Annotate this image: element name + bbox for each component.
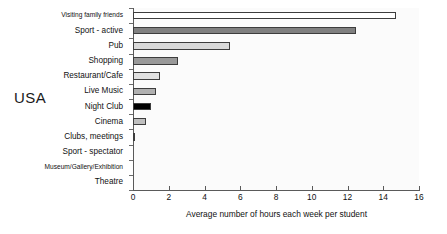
x-axis-tick — [169, 186, 170, 191]
category-label: Sport - spectator — [0, 145, 128, 160]
x-axis-tick — [133, 186, 134, 191]
bar — [133, 72, 160, 80]
x-axis-tick — [383, 186, 384, 191]
category-label: Museum/Gallery/Exhibition — [0, 160, 128, 175]
x-axis-tick — [240, 186, 241, 191]
bar — [133, 42, 230, 50]
bar — [133, 57, 178, 65]
bar-row — [133, 38, 419, 53]
x-axis-tick — [205, 186, 206, 191]
bar-row — [133, 53, 419, 68]
bars-layer — [133, 8, 419, 190]
category-label: Pub — [0, 38, 128, 53]
bar — [133, 103, 151, 111]
bar-chart-figure: USA Visiting family friendsSport - activ… — [0, 0, 447, 234]
category-axis: Visiting family friendsSport - activePub… — [0, 8, 128, 190]
bar-row — [133, 69, 419, 84]
bar-row — [133, 8, 419, 23]
x-axis-tick — [419, 186, 420, 191]
bar-row — [133, 160, 419, 175]
x-axis-tick — [348, 186, 349, 191]
bar-row — [133, 84, 419, 99]
x-axis-title: Average number of hours each week per st… — [133, 209, 420, 219]
category-label: Restaurant/Cafe — [0, 69, 128, 84]
bar-row — [133, 144, 419, 159]
x-axis-tick-label: 4 — [202, 193, 207, 201]
category-label: Night Club — [0, 99, 128, 114]
category-label: Shopping — [0, 54, 128, 69]
category-label: Cinema — [0, 114, 128, 129]
bar-row — [133, 99, 419, 114]
x-axis-tick-label: 14 — [379, 193, 388, 201]
category-label: Visiting family friends — [0, 8, 128, 23]
x-axis-tick-label: 12 — [343, 193, 352, 201]
x-axis-tick-label: 0 — [131, 193, 136, 201]
bar-row — [133, 23, 419, 38]
bar — [133, 12, 396, 20]
x-axis-tick-label: 16 — [414, 193, 423, 201]
bar — [133, 133, 135, 141]
x-axis-tick-label: 2 — [166, 193, 171, 201]
bar-row — [133, 129, 419, 144]
bar — [133, 88, 156, 96]
category-label: Live Music — [0, 84, 128, 99]
x-axis-tick-label: 8 — [274, 193, 279, 201]
bar — [133, 27, 356, 35]
x-axis-tick-label: 6 — [238, 193, 243, 201]
bar-row — [133, 114, 419, 129]
category-label: Clubs, meetings — [0, 129, 128, 144]
x-axis-tick-label: 10 — [307, 193, 316, 201]
category-label: Sport - active — [0, 23, 128, 38]
x-axis-tick — [312, 186, 313, 191]
category-label: Theatre — [0, 175, 128, 190]
bar — [133, 118, 146, 126]
x-axis-tick — [276, 186, 277, 191]
